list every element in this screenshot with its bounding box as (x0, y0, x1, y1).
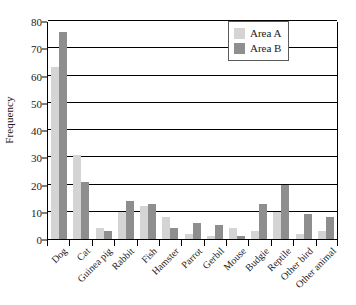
bar-group (181, 22, 203, 239)
bar (73, 155, 81, 239)
legend-swatch-area-a (234, 28, 245, 39)
y-axis-tick-label: 80 (31, 17, 42, 28)
bar-group (204, 22, 226, 239)
bar (140, 206, 148, 239)
bar (126, 201, 134, 239)
bar-chart: Frequency 01020304050607080 DogCatGuinea… (0, 0, 356, 305)
x-axis-tick-label: Budgie (243, 246, 270, 273)
y-axis-tick-label: 60 (31, 71, 42, 82)
y-axis-tick-labels: 01020304050607080 (16, 22, 42, 240)
x-axis-tick-label: Gerbil (201, 246, 226, 271)
bar (326, 217, 334, 239)
y-axis-tick-label: 20 (31, 180, 42, 191)
bar (207, 236, 215, 239)
bar-group (293, 22, 315, 239)
bar (259, 204, 267, 239)
x-axis-tick-label: Dog (50, 246, 69, 265)
bar (237, 236, 245, 239)
bar-group (315, 22, 337, 239)
y-axis-tick-label: 40 (31, 126, 42, 137)
y-axis-tick-label: 70 (31, 44, 42, 55)
legend-item-area-a: Area A (234, 26, 281, 41)
bar (59, 32, 67, 239)
x-axis-tick-label: Cat (75, 246, 92, 263)
bar-group (137, 22, 159, 239)
bar (51, 67, 59, 239)
legend-item-area-b: Area B (234, 41, 281, 56)
bars-layer (48, 22, 337, 239)
y-axis-title-text: Frequency (3, 96, 15, 143)
y-axis-tick-label: 30 (31, 153, 42, 164)
bar (273, 212, 281, 239)
bar (281, 185, 289, 240)
y-axis-tick-label: 50 (31, 98, 42, 109)
bar (251, 231, 259, 239)
bar (296, 234, 304, 239)
chart-legend: Area A Area B (228, 21, 289, 61)
bar-group (159, 22, 181, 239)
x-axis-tick-labels: DogCatGuinea pigRabbitFishHamsterParrotG… (47, 246, 338, 304)
bar (170, 228, 178, 239)
bar-group (70, 22, 92, 239)
bar (304, 214, 312, 239)
legend-swatch-area-b (234, 43, 245, 54)
x-axis-tick-label: Rabbit (110, 246, 136, 272)
bar (104, 231, 112, 239)
plot-area (47, 22, 338, 240)
bar-group (48, 22, 70, 239)
bar (318, 231, 326, 239)
bar (148, 204, 156, 239)
bar (162, 217, 170, 239)
bar (193, 223, 201, 239)
y-axis-tick-label: 10 (31, 207, 42, 218)
bar (118, 212, 126, 239)
bar (96, 228, 104, 239)
bar-group (92, 22, 114, 239)
bar (81, 182, 89, 239)
gridline (48, 20, 337, 21)
x-axis-tick-label: Mouse (222, 246, 248, 272)
x-axis-tick-label: Parrot (179, 246, 203, 270)
legend-label-area-a: Area A (250, 28, 281, 39)
bar (215, 225, 223, 239)
bar (185, 234, 193, 239)
bar-group (115, 22, 137, 239)
legend-label-area-b: Area B (250, 43, 281, 54)
bar (229, 228, 237, 239)
